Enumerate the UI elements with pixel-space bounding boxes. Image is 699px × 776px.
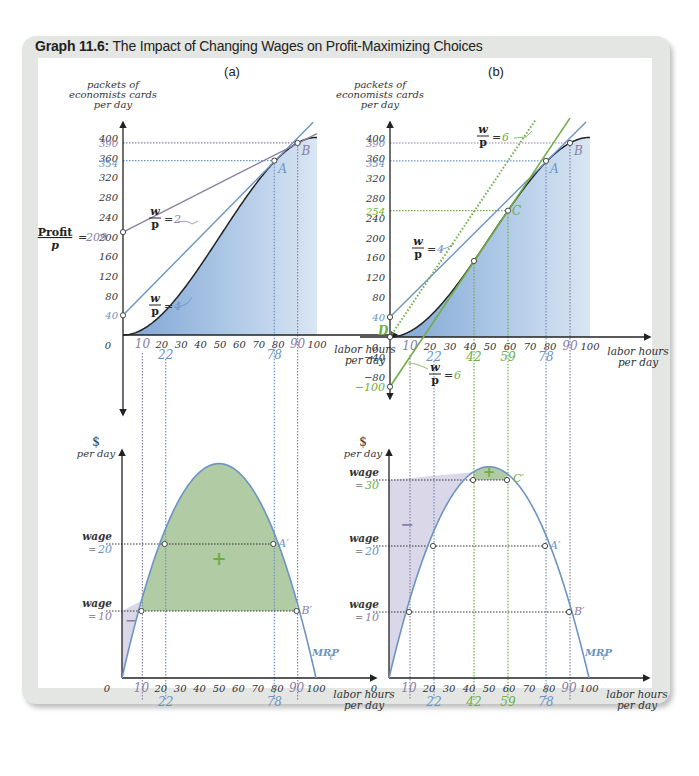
wp6b-label-den: p (431, 374, 439, 387)
x-tick-label: 40 (193, 339, 207, 350)
point-10 (139, 608, 144, 613)
x-tick-label: 100 (580, 341, 600, 352)
point-D-label: D (377, 324, 389, 338)
origin-label: 0 (371, 683, 378, 694)
y-tick-label: 280 (98, 192, 119, 203)
point-B-label: B (573, 144, 583, 158)
origin-label: 0 (105, 340, 112, 351)
wp2-label-den: p (151, 218, 159, 231)
wage-eq: = (355, 612, 363, 623)
y-tick-label: 200 (365, 233, 386, 244)
x-tick-59: 59 (500, 350, 516, 364)
point-B (295, 140, 300, 145)
wp6b-label-num: w (430, 361, 440, 374)
profit-value: 209 (85, 231, 107, 244)
x-tick-label: 80 (543, 683, 556, 694)
intercept-neg100 (387, 384, 392, 389)
y-tick-neg100: −100 (355, 381, 385, 394)
y-axis-label: per day (361, 99, 400, 110)
point-A-prime-label: A′ (277, 537, 289, 550)
y-axis-label: per day (344, 448, 383, 459)
wp4-label-den: p (151, 305, 159, 318)
wage-value: 10 (365, 611, 379, 624)
point-C-prime-label: C′ (513, 472, 524, 485)
y-tick-label: 280 (365, 193, 386, 204)
x-tick-78: 78 (538, 695, 554, 709)
mrp-subscript: ℓ (602, 652, 606, 662)
intercept-209 (120, 229, 125, 234)
wp2-leader (178, 221, 198, 224)
point-42 (470, 477, 475, 482)
x-tick-label: 10 (134, 681, 150, 695)
y-tick-390: 390 (366, 138, 386, 149)
wp6b-leader (408, 363, 428, 369)
profit-den: p (51, 239, 59, 252)
origin-label: 0 (372, 342, 379, 353)
wage-eq: = (355, 546, 363, 557)
point-C-label: C (512, 204, 521, 218)
wp4-label-num: w (150, 292, 160, 305)
x-tick-label: 90 (290, 337, 306, 351)
x-tick-label: 100 (307, 339, 327, 350)
x-tick-label: 30 (443, 683, 456, 694)
point-B-prime-label: B′ (573, 605, 585, 618)
wage-value: 30 (365, 479, 379, 492)
point-A-prime (542, 543, 547, 548)
wp6-label-value: 6 (502, 131, 509, 144)
x-tick-label: 70 (523, 683, 536, 694)
x-tick-label: 60 (232, 683, 245, 694)
y-tick-254: 254 (365, 206, 385, 217)
x-tick-label: 40 (192, 683, 206, 694)
x-tick-78: 78 (538, 350, 554, 364)
wage-label: wage (349, 532, 379, 544)
wp4-label-value: 4 (173, 300, 181, 313)
point-A-prime (271, 541, 276, 546)
y-axis-label: per day (94, 99, 133, 110)
x-tick-22: 22 (157, 348, 173, 362)
wp6-leader (514, 131, 532, 138)
panel-b-label: (b) (488, 64, 504, 79)
x-axis-label: per day (344, 699, 385, 711)
x-tick-label: 10 (401, 681, 417, 695)
x-tick-label: 10 (135, 337, 151, 351)
x-tick-label: 50 (213, 683, 226, 694)
point-A-label: A (549, 162, 559, 176)
wp6b-label-value: 6 (454, 369, 461, 382)
x-tick-label: 90 (562, 339, 578, 353)
x-tick-42: 42 (465, 695, 481, 709)
x-axis-label: per day (618, 356, 659, 368)
wage-value: 20 (364, 545, 379, 558)
plus-sign: + (483, 463, 496, 481)
intercept-40 (120, 313, 125, 318)
mrp-label: MRP (311, 647, 339, 658)
wp4b-label-value: 4 (436, 243, 444, 256)
point-B-prime-label: B′ (301, 604, 313, 617)
x-tick-78: 78 (267, 695, 283, 709)
x-tick-label: 50 (483, 683, 496, 694)
panel-a-label: (a) (224, 64, 240, 79)
wage-label: wage (349, 466, 379, 478)
x-tick-label: 70 (251, 683, 264, 694)
x-tick-label: 50 (484, 341, 497, 352)
mrp-label: MRP (584, 647, 612, 658)
y-tick-label: 320 (366, 173, 386, 184)
plus-sign: + (211, 548, 226, 569)
profit-label: Profit (38, 226, 73, 239)
chart-canvas: 4080120160200240280320360400390354010203… (0, 0, 699, 776)
wage-eq: = (88, 611, 96, 622)
y-tick-label: 120 (99, 271, 119, 282)
minus-sign: − (400, 515, 413, 534)
x-tick-label: 70 (252, 339, 265, 350)
wage-label: wage (349, 598, 379, 610)
y-tick-label: −40 (364, 352, 386, 363)
y-tick-label: 80 (105, 291, 118, 302)
wp6-label-den: p (479, 136, 487, 149)
point-A-prime-label: A′ (549, 539, 561, 552)
x-tick-label: 70 (524, 341, 537, 352)
wp4b-label-den: p (414, 248, 422, 261)
wage-value: 20 (97, 543, 112, 556)
y-tick-label: 80 (372, 292, 385, 303)
point-B-label: B (301, 144, 311, 158)
y-tick-354: 354 (366, 158, 385, 169)
x-axis-label: per day (617, 699, 658, 711)
